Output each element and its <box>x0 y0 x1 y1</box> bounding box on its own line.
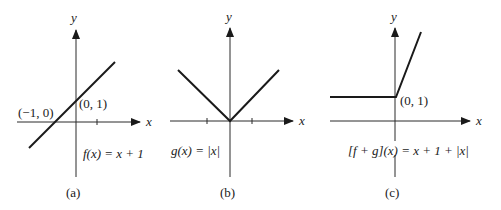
function-label-f-plus-g: [f + g](x) = x + 1 + |x| <box>348 143 469 158</box>
x-axis-label: x <box>298 113 305 128</box>
point-label-0-1: (0, 1) <box>400 93 428 108</box>
y-axis-label: y <box>389 9 397 24</box>
point-label-neg1-0: (−1, 0) <box>18 105 54 120</box>
y-axis-label: y <box>69 10 77 25</box>
panel-b: y x g(x) = |x| (b) <box>170 9 305 200</box>
caption-b: (b) <box>220 185 235 200</box>
point-label-0-1: (0, 1) <box>79 96 107 111</box>
function-label-f: f(x) = x + 1 <box>83 146 144 161</box>
curve-f-plus-g <box>330 32 421 97</box>
x-axis-label: x <box>145 114 152 129</box>
function-graphs-figure: y x (−1, 0) (0, 1) f(x) = x + 1 (a) y x … <box>0 0 501 210</box>
caption-a: (a) <box>66 185 80 200</box>
panel-c: y x (0, 1) [f + g](x) = x + 1 + |x| (c) <box>330 9 482 200</box>
panel-a: y x (−1, 0) (0, 1) f(x) = x + 1 (a) <box>17 10 152 200</box>
function-label-g: g(x) = |x| <box>171 143 220 158</box>
caption-c: (c) <box>385 185 399 200</box>
curve-g-abs <box>178 70 279 121</box>
y-axis-label: y <box>224 9 232 24</box>
x-axis-label: x <box>475 113 482 128</box>
